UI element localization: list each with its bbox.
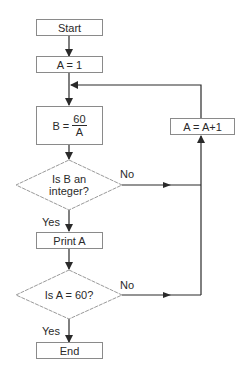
increment-label: A = A+1 — [183, 121, 222, 133]
increment-node: A = A+1 — [170, 118, 235, 135]
decision1-line2: integer? — [44, 185, 94, 197]
start-label: Start — [58, 22, 81, 34]
init-label: A = 1 — [57, 59, 82, 71]
print-node: Print A — [36, 232, 103, 249]
decision1-label: Is B an integer? — [44, 173, 94, 197]
decision2-label: Is A = 60? — [34, 289, 104, 301]
decision2-yes-label: Yes — [42, 325, 60, 337]
start-node: Start — [36, 19, 103, 36]
fraction: 60 A — [72, 113, 86, 138]
end-label: End — [60, 345, 80, 357]
init-node: A = 1 — [36, 56, 103, 73]
compute-node: B = 60 A — [36, 106, 103, 145]
decision1-yes-label: Yes — [42, 216, 60, 228]
print-label: Print A — [53, 235, 85, 247]
fraction-numerator: 60 — [72, 113, 86, 126]
decision2-no-label: No — [120, 279, 134, 291]
decision1-no-label: No — [120, 168, 134, 180]
end-node: End — [36, 342, 103, 359]
fraction-denominator: A — [76, 126, 83, 138]
decision1-line1: Is B an — [44, 173, 94, 185]
compute-prefix: B = — [52, 120, 69, 132]
